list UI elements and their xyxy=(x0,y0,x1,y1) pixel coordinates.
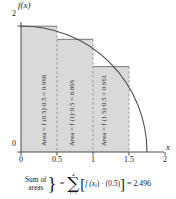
sum-of-areas-label: Sum of areas xyxy=(25,176,47,192)
x-axis-label: x xyxy=(166,143,170,152)
x-tick-0: 0 xyxy=(9,156,33,164)
sum-of-areas-line2: areas xyxy=(28,183,43,192)
x-tick-2: 2 xyxy=(153,156,176,164)
area-label-bar-3: Area = f (1.5)·0.5 = 0.661 xyxy=(100,75,107,146)
x-tick-1.5: 1.5 xyxy=(117,156,141,164)
y-tick-0: 0 xyxy=(12,140,16,148)
bar-0-0.5 xyxy=(21,26,57,152)
x-tick-0.5: 0.5 xyxy=(45,156,69,164)
summand-prefix: f (x xyxy=(85,179,95,188)
area-label-bar-2: Area = f (1)·0.5 = 0.866 xyxy=(68,80,75,146)
bar-0.5-1 xyxy=(57,39,93,152)
y-tick-2: 2 xyxy=(12,10,16,18)
x-tick-1: 1 xyxy=(81,156,105,164)
summation-operator: 4 ∑ i=1 xyxy=(67,172,79,194)
sum-result: = 2.496 xyxy=(127,179,151,188)
sigma-glyph: ∑ xyxy=(67,176,79,190)
sum-formula: Sum of areas } = 4 ∑ i=1 [ f (xi) · (0.5… xyxy=(0,168,176,199)
equals-sign-1: = xyxy=(60,179,65,188)
riemann-sum-figure: f(x) x 2 0 0 0.5 1 1.5 2 Area = f (0.5)·… xyxy=(0,0,176,199)
y-axis-label: f(x) xyxy=(18,1,31,10)
area-label-bar-1: Area = f (0.5)·0.5 = 0.968 xyxy=(40,75,47,146)
sigma-lower-limit: i=1 xyxy=(70,190,77,195)
summand-expression: f (xi) · (0.5) xyxy=(85,179,120,188)
rectangle-bars xyxy=(21,26,129,152)
summand-suffix: ) · (0.5) xyxy=(97,179,120,188)
